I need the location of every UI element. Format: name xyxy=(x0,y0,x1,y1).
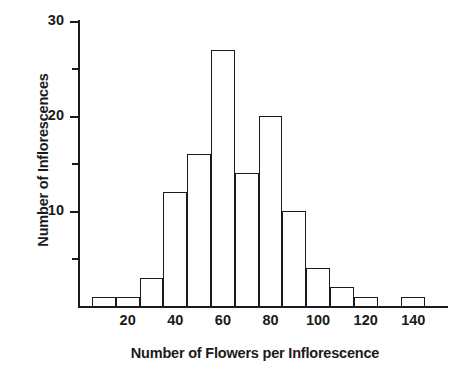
histogram-figure: Number of Inflorescences 30 20 10 xyxy=(0,0,455,375)
bar-bin-55-65 xyxy=(211,50,235,307)
x-axis-title: Number of Flowers per Inflorescence xyxy=(70,345,440,361)
y-tick-label-20: 20 xyxy=(48,107,64,124)
y-axis-title: Number of Inflorescences xyxy=(35,25,51,295)
bar-bin-45-55 xyxy=(187,154,211,306)
x-tick-label-100: 100 xyxy=(306,312,330,328)
x-tick-label-80: 80 xyxy=(262,312,278,328)
bar-bin-15-25 xyxy=(116,297,140,307)
bar-bin-65-75 xyxy=(235,173,259,306)
bar-bin-35-45 xyxy=(163,192,187,306)
bar-bin-95-105 xyxy=(306,268,330,306)
y-tick-label-30: 30 xyxy=(48,12,64,29)
bar-bin-5-15 xyxy=(92,297,116,307)
bar-bin-25-35 xyxy=(140,278,164,307)
y-tick-30: 30 xyxy=(70,21,78,23)
x-tick-label-20: 20 xyxy=(120,312,136,328)
bar-bin-75-85 xyxy=(259,116,283,306)
x-tick-label-40: 40 xyxy=(167,312,183,328)
bar-bin-105-115 xyxy=(330,287,354,306)
bars-group xyxy=(78,20,448,308)
bar-bin-135-145 xyxy=(401,297,425,307)
y-tick-20: 20 xyxy=(70,116,78,118)
bar-bin-85-95 xyxy=(282,211,306,306)
x-tick-label-120: 120 xyxy=(354,312,378,328)
x-tick-label-60: 60 xyxy=(215,312,231,328)
y-tick-10: 10 xyxy=(70,211,78,213)
y-tick-label-10: 10 xyxy=(48,202,64,219)
plot-area: 30 20 10 20 40 6 xyxy=(78,20,448,308)
bar-bin-115-125 xyxy=(354,297,378,307)
x-tick-label-140: 140 xyxy=(401,312,425,328)
